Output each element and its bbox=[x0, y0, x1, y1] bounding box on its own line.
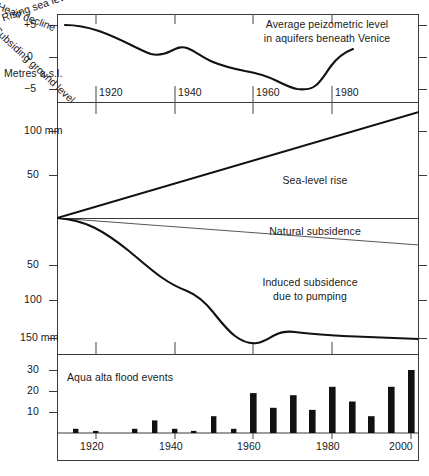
ylabel-p4-20: 20 bbox=[27, 385, 39, 396]
ylabel-p4-10: 10 bbox=[27, 406, 39, 417]
ytick-p2-50 bbox=[49, 175, 58, 176]
ylabel-p2-100mm: 100 mm bbox=[24, 125, 63, 136]
bar-1995 bbox=[388, 387, 395, 433]
bar-1990 bbox=[368, 416, 375, 433]
ytick-r-p3-50 bbox=[418, 265, 427, 266]
ytick-p4-20 bbox=[49, 391, 58, 392]
venice-subsidence-figure: +5 0 −5 Metres a.s.l. 1920 1940 1960 198… bbox=[0, 0, 429, 476]
sea-level-plot bbox=[57, 102, 419, 218]
bar-1950 bbox=[211, 416, 216, 433]
ytick-r-p3-150mm bbox=[418, 338, 427, 339]
xlabel-top-1980: 1980 bbox=[335, 86, 359, 98]
annotation-aqua-alta: Aqua alta flood events bbox=[67, 371, 247, 384]
annotation-sea-level-rise: Sea-level rise bbox=[240, 174, 390, 187]
xlabel-bottom-1980: 1980 bbox=[316, 440, 340, 452]
ytick-p4-10 bbox=[49, 412, 58, 413]
ylabel-p4-30: 30 bbox=[27, 364, 39, 375]
annotation-induced-subsidence-line2: due to pumping bbox=[230, 290, 390, 303]
xlabel-bottom-1960: 1960 bbox=[237, 440, 261, 452]
bar-1975 bbox=[309, 410, 316, 433]
annotation-piezometric-line2: in aquifers beneath Venice bbox=[237, 32, 417, 45]
ylabel-p3-50: 50 bbox=[27, 259, 39, 270]
panel-sea-level-rise bbox=[57, 102, 419, 218]
ytick-r-p3-100 bbox=[418, 300, 427, 301]
ytick-r-p1-minus5 bbox=[418, 89, 427, 90]
ytick-p3-50 bbox=[49, 265, 58, 266]
ytick-p4-30 bbox=[49, 370, 58, 371]
bar-1985 bbox=[349, 402, 356, 434]
ytick-p1-zero bbox=[49, 57, 58, 58]
bar-1955 bbox=[231, 429, 236, 433]
xlabel-bottom-2000: 2000 bbox=[389, 440, 413, 452]
bar-2000 bbox=[408, 370, 415, 433]
bar-1920 bbox=[93, 431, 98, 433]
bar-1965 bbox=[270, 408, 277, 433]
ylabel-p3-100: 100 bbox=[24, 294, 42, 305]
ytick-r-p1-plus5 bbox=[418, 25, 427, 26]
annotation-natural-subsidence: Natural subsidence bbox=[240, 225, 390, 238]
bar-1970 bbox=[290, 395, 297, 433]
xlabel-top-1920: 1920 bbox=[99, 86, 123, 98]
xlabel-top-1960: 1960 bbox=[256, 86, 280, 98]
bar-1915 bbox=[73, 429, 78, 433]
xlabel-bottom-1940: 1940 bbox=[159, 440, 183, 452]
ytick-r-p1-zero bbox=[418, 57, 427, 58]
ytick-r-p2-50 bbox=[418, 175, 427, 176]
bar-1945 bbox=[191, 431, 196, 433]
bar-1930 bbox=[132, 429, 137, 433]
bar-1960 bbox=[250, 393, 257, 433]
bar-1935 bbox=[152, 420, 157, 433]
ylabel-p1-minus5: −5 bbox=[24, 83, 36, 94]
ytick-p3-100 bbox=[49, 300, 58, 301]
annotation-piezometric-line1: Average peizometric level bbox=[237, 18, 417, 31]
ylabel-p3-150mm: 150 mm bbox=[20, 332, 59, 343]
bar-1980 bbox=[329, 387, 336, 433]
ytick-r-p2-100mm bbox=[418, 131, 427, 132]
xlabel-bottom-1920: 1920 bbox=[80, 440, 104, 452]
ylabel-p2-50: 50 bbox=[27, 169, 39, 180]
bar-1940 bbox=[172, 429, 177, 433]
